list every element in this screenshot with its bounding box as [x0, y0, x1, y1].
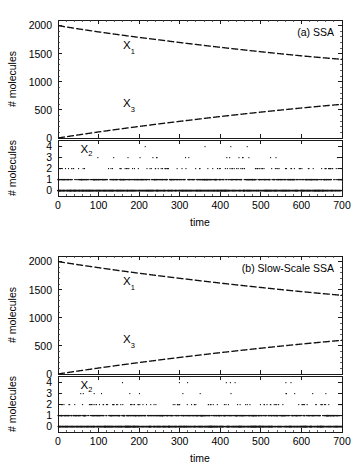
bottom-ytick-label: 4	[46, 140, 52, 152]
scatter-point	[333, 415, 334, 416]
scatter-point	[80, 415, 81, 416]
scatter-point	[113, 157, 114, 158]
top-ytick-label: 2000	[29, 255, 53, 267]
scatter-point	[235, 382, 236, 383]
scatter-point	[100, 179, 101, 180]
bottom-xtick-label: 700	[333, 435, 351, 447]
scatter-point	[68, 168, 69, 169]
scatter-point	[182, 393, 183, 394]
scatter-point	[210, 190, 212, 191]
scatter-point	[300, 179, 301, 180]
scatter-point	[185, 190, 187, 191]
scatter-point	[254, 179, 255, 180]
bottom-ytick-label: 0	[46, 184, 52, 196]
scatter-point	[178, 190, 180, 191]
scatter-point	[300, 168, 301, 169]
scatter-point	[62, 415, 63, 416]
scatter-point	[285, 415, 286, 416]
scatter-point	[247, 426, 249, 427]
scatter-point	[258, 190, 260, 191]
scatter-point	[140, 426, 142, 427]
scatter-point	[155, 179, 156, 180]
scatter-point	[298, 404, 299, 405]
scatter-point	[219, 415, 220, 416]
scatter-point	[219, 168, 220, 169]
bottom-xtick-label: 0	[55, 435, 61, 447]
scatter-point	[145, 426, 147, 427]
scatter-point	[303, 404, 304, 405]
scatter-point	[321, 168, 322, 169]
scatter-point	[171, 426, 173, 427]
scatter-point	[248, 426, 250, 427]
scatter-point	[138, 179, 139, 180]
scatter-point	[310, 179, 311, 180]
scatter-point	[131, 179, 132, 180]
scatter-point	[84, 426, 86, 427]
scatter-point	[153, 179, 154, 180]
scatter-point	[185, 415, 186, 416]
scatter-point	[166, 426, 168, 427]
scatter-point	[165, 168, 166, 169]
scatter-point	[231, 179, 232, 180]
scatter-point	[260, 190, 262, 191]
scatter-point	[96, 404, 97, 405]
scatter-point	[297, 190, 299, 191]
scatter-point	[245, 179, 246, 180]
scatter-point	[158, 415, 159, 416]
scatter-point	[137, 426, 139, 427]
scatter-point	[138, 168, 139, 169]
scatter-point	[214, 415, 215, 416]
scatter-point	[150, 415, 151, 416]
scatter-point	[64, 415, 65, 416]
scatter-point	[131, 404, 132, 405]
scatter-point	[338, 179, 339, 180]
scatter-point	[123, 190, 125, 191]
scatter-point	[81, 179, 82, 180]
scatter-point	[285, 168, 286, 169]
scatter-point	[339, 190, 341, 191]
scatter-point	[133, 179, 134, 180]
scatter-point	[238, 168, 239, 169]
scatter-point	[250, 415, 251, 416]
scatter-point	[146, 404, 147, 405]
scatter-point	[225, 426, 227, 427]
scatter-point	[174, 426, 176, 427]
scatter-point	[94, 415, 95, 416]
bottom-xtick-label: 100	[90, 435, 108, 447]
scatter-point	[247, 404, 248, 405]
scatter-point	[316, 415, 317, 416]
scatter-point	[230, 190, 232, 191]
scatter-point	[163, 426, 165, 427]
scatter-point	[179, 179, 180, 180]
scatter-point	[284, 179, 285, 180]
scatter-point	[195, 190, 197, 191]
scatter-point	[179, 382, 180, 383]
scatter-point	[156, 426, 158, 427]
scatter-point	[238, 157, 239, 158]
scatter-point	[318, 415, 319, 416]
scatter-point	[278, 404, 279, 405]
scatter-point	[245, 426, 247, 427]
scatter-point	[120, 179, 121, 180]
scatter-point	[210, 179, 211, 180]
scatter-point	[90, 426, 92, 427]
scatter-point	[88, 426, 90, 427]
scatter-point	[161, 168, 162, 169]
scatter-point	[167, 190, 169, 191]
scatter-point	[76, 415, 77, 416]
scatter-point	[236, 415, 237, 416]
scatter-point	[191, 179, 192, 180]
scatter-point	[189, 426, 191, 427]
scatter-point	[187, 426, 189, 427]
scatter-point	[186, 415, 187, 416]
scatter-point	[101, 426, 103, 427]
scatter-point	[77, 426, 79, 427]
scatter-point	[118, 426, 120, 427]
scatter-point	[202, 190, 204, 191]
scatter-point	[299, 179, 300, 180]
scatter-point	[111, 179, 112, 180]
scatter-point	[171, 190, 173, 191]
scatter-point	[249, 415, 250, 416]
scatter-point	[122, 382, 123, 383]
scatter-point	[174, 190, 176, 191]
